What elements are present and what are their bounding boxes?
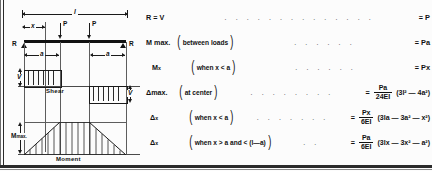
moment-max-arrow-down-icon: [18, 150, 22, 154]
card-border-left-outer: [0, 0, 1, 167]
formula-condition-delta-x-mid: ( when x > a and < (l—a) ): [188, 139, 272, 146]
shear-negative-hatch: [90, 87, 125, 101]
formula-name-moment-x: Mx: [146, 63, 182, 72]
moment-caption: Moment: [56, 156, 81, 162]
formula-numerator-delta-x-left: Px: [360, 109, 373, 117]
load-left-arrow-icon: [58, 35, 62, 39]
dim-a-left-label: a: [39, 51, 45, 58]
x-arrow-left-icon: [22, 25, 25, 29]
formula-leader-reaction: . . . . . . . . . . . . . .: [180, 14, 419, 21]
formula-list: R = V . . . . . . . . . . . . . . = P M …: [146, 6, 430, 164]
formula-tail-delta-x-left: (3la — 3a² — x²): [377, 114, 430, 121]
card-border-bottom-outer: [0, 169, 432, 170]
formula-numerator-delta-max: Pa: [377, 84, 390, 92]
formula-leader-delta-max: . . . . . . . .: [219, 89, 366, 96]
formula-name-delta-x-left: Δx: [146, 113, 180, 122]
load-right-arrow-icon: [87, 35, 91, 39]
formula-name-delta-max: Δmax.: [146, 88, 178, 97]
formula-row-delta-x-mid: Δx ( when x > a and < (l—a) ) . . = Pa 6…: [146, 131, 430, 153]
x-dimension-label: x: [30, 23, 36, 30]
formula-condition-text-moment-max: between loads: [182, 39, 229, 46]
shear-v-right-arrow-down-icon: [128, 99, 132, 103]
formula-condition-text-moment-x: when x < a: [196, 64, 232, 71]
formula-result-reaction: P: [425, 13, 430, 22]
formula-condition-text-delta-x-mid: when x > a and < (l—a): [194, 139, 267, 146]
formula-leader-delta-x-left: . . . . . . .: [235, 114, 351, 121]
formula-denominator-delta-x-left: 6EI: [359, 118, 374, 126]
formula-row-moment-x: Mx ( when x < a ) . . . . . . = Px: [146, 56, 430, 78]
beam-formula-card: l x P P R R a a: [0, 0, 432, 171]
span-label: l: [72, 9, 78, 16]
formula-subscript-delta-x-mid: x: [155, 140, 158, 146]
formula-result-moment-max: Pa: [421, 38, 430, 47]
formula-name-moment-max: M max.: [146, 38, 176, 47]
shear-v-left-arrow-down-icon: [18, 83, 22, 87]
formula-result-delta-x-mid: Pa 6EI (3lx — 3x² — a²): [357, 134, 430, 150]
formula-tail-delta-max: (3l² — 4a²): [396, 89, 430, 96]
formula-row-delta-x-left: Δx ( when x < a ) . . . . . . . = Px 6EI…: [146, 106, 430, 128]
formula-condition-delta-x-left: ( when x < a ): [188, 114, 235, 121]
dim-a-right-arrow-end-icon: [122, 53, 125, 57]
moment-max-arrow-up-icon: [18, 122, 22, 126]
formula-leader-moment-x: . . . . . .: [237, 64, 415, 71]
formula-result-delta-x-left: Px 6EI (3la — 3a² — x²): [357, 109, 430, 125]
reaction-left-label: R: [12, 41, 17, 48]
card-border-bottom: [0, 165, 432, 168]
formula-condition-moment-x: ( when x < a ): [190, 64, 237, 71]
formula-fraction-delta-x-mid: Pa 6EI: [359, 134, 374, 150]
formula-fraction-delta-max: Pa 24EI: [374, 84, 392, 100]
reaction-right-label: R: [129, 41, 134, 48]
shear-v-left-label: V: [16, 74, 22, 81]
formula-result-delta-max: Pa 24EI (3l² — 4a²): [372, 84, 430, 100]
dim-a-right-label: a: [105, 51, 111, 58]
moment-trapezoid-shape: [24, 122, 127, 155]
formula-subscript-moment-x: x: [158, 65, 161, 71]
formula-condition-delta-max: ( at center ): [178, 89, 219, 96]
formula-row-reaction: R = V . . . . . . . . . . . . . . = P: [146, 6, 430, 28]
formula-fraction-delta-x-left: Px 6EI: [359, 109, 374, 125]
load-left-label: P: [63, 21, 67, 28]
formula-condition-text-delta-x-left: when x < a: [194, 114, 230, 121]
moment-max-subscript: max.: [16, 134, 26, 139]
formula-condition-moment-max: ( between loads ): [176, 39, 235, 46]
formula-row-delta-max: Δmax. ( at center ) . . . . . . . . = Pa…: [146, 81, 430, 103]
dim-a-left-arrow-start-icon: [24, 53, 27, 57]
card-border-left: [3, 0, 4, 167]
shear-v-left-arrow-up-icon: [18, 68, 22, 72]
formula-name-delta-x-mid: Δx: [146, 138, 180, 147]
load-right-label: P: [92, 21, 96, 28]
beam-diagram: l x P P R R a a: [8, 2, 140, 164]
formula-tail-delta-x-mid: (3lx — 3x² — a²): [377, 139, 430, 146]
formula-name-reaction: R = V: [146, 13, 180, 22]
moment-max-label: Mmax.: [10, 133, 28, 140]
formula-condition-text-delta-max: at center: [184, 89, 214, 96]
formula-leader-moment-max: . . . . . .: [235, 39, 415, 46]
dim-a-left-arrow-end-icon: [56, 53, 59, 57]
formula-denominator-delta-max: 24EI: [374, 93, 392, 101]
formula-subscript-delta-x-left: x: [155, 115, 158, 121]
formula-result-moment-x: Px: [421, 63, 430, 72]
span-tick-right: [127, 10, 128, 18]
span-tick-left: [22, 10, 23, 18]
dim-a-right-arrow-start-icon: [90, 53, 93, 57]
formula-denominator-delta-x-mid: 6EI: [359, 143, 374, 151]
beam-member: [24, 40, 126, 43]
formula-leader-delta-x-mid: . .: [272, 139, 350, 146]
formula-numerator-delta-x-mid: Pa: [360, 134, 373, 142]
shear-positive-hatch: [25, 71, 59, 85]
shear-v-right-label: V: [127, 90, 133, 97]
shear-caption: Shear: [46, 88, 64, 94]
formula-row-moment-max: M max. ( between loads ) . . . . . . = P…: [146, 31, 430, 53]
